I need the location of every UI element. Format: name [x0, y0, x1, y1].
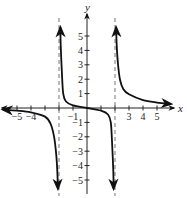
y-tick-label: −4 [72, 160, 83, 171]
y-tick-label: −1 [72, 117, 83, 128]
x-tick-label: 3 [127, 111, 132, 122]
y-tick-label: 1 [78, 88, 83, 99]
x-tick-label: 4 [141, 111, 146, 122]
right-branch-curve [116, 27, 171, 104]
y-tick-label: 4 [78, 45, 83, 56]
y-tick-label: −5 [72, 175, 83, 186]
axes [2, 14, 174, 194]
x-tick-label: −5 [12, 111, 23, 122]
y-tick-label: −3 [72, 146, 83, 157]
y-tick-label: 3 [78, 59, 83, 70]
rational-function-graph: −5−4−134554321−1−2−3−4−5 x y [0, 0, 187, 198]
y-tick-label: 2 [78, 74, 83, 85]
y-axis-label: y [84, 1, 90, 13]
x-tick-label: 5 [155, 111, 160, 122]
x-axis-label: x [177, 102, 183, 114]
y-tick-label: −2 [72, 131, 83, 142]
y-tick-label: 5 [78, 31, 83, 42]
